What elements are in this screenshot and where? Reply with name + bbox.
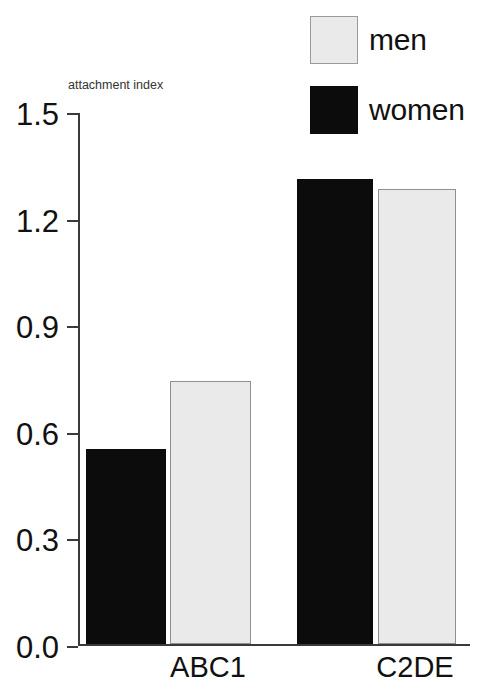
y-tick-0-0: 0.0 (67, 646, 78, 648)
bar-chart: men women attachment index 1.5 1.2 0.9 0… (0, 0, 497, 697)
y-tick-0-3: 0.3 (67, 539, 78, 541)
y-tick-label-0-3: 0.3 (16, 525, 59, 556)
legend-item-men: men (310, 12, 490, 68)
plot-area: 1.5 1.2 0.9 0.6 0.3 0.0 ABC1 C2DE (78, 113, 470, 646)
y-tick-label-1-2: 1.2 (16, 205, 59, 236)
y-tick-1-2: 1.2 (67, 220, 78, 222)
y-tick-0-6: 0.6 (67, 433, 78, 435)
bar-abc1-women (86, 449, 166, 644)
bar-c2de-men (378, 189, 456, 644)
x-category-label-abc1: ABC1 (170, 653, 246, 682)
y-axis-title: attachment index (68, 78, 163, 92)
legend-label-men: men (369, 25, 427, 55)
y-tick-label-0-6: 0.6 (16, 418, 59, 449)
bar-abc1-men (170, 381, 251, 644)
x-axis-line (78, 644, 470, 646)
bar-c2de-women (297, 179, 373, 644)
y-tick-label-0-9: 0.9 (16, 312, 59, 343)
y-tick-0-9: 0.9 (67, 326, 78, 328)
legend-swatch-men-icon (310, 16, 358, 64)
y-tick-label-0-0: 0.0 (16, 632, 59, 663)
y-tick-1-5: 1.5 (67, 113, 78, 115)
y-axis-line (78, 113, 80, 646)
y-tick-label-1-5: 1.5 (16, 99, 59, 130)
x-category-label-c2de: C2DE (376, 653, 453, 682)
